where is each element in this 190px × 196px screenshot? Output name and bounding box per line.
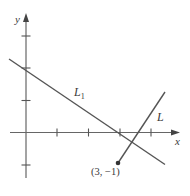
x-axis-label: x: [174, 135, 180, 147]
point-label: (3, −1): [91, 166, 120, 178]
coordinate-diagram: y x L1 L (3, −1): [0, 0, 190, 196]
x-axis: [10, 129, 180, 137]
point-marker: [116, 161, 121, 166]
y-axis-label: y: [14, 13, 20, 25]
line-L-label: L: [156, 110, 164, 124]
y-axis-arrow-icon: [23, 13, 29, 22]
line-L1: [9, 59, 165, 165]
line-L1-label: L1: [73, 85, 85, 101]
y-axis: [22, 13, 31, 178]
line-L: [118, 92, 165, 163]
